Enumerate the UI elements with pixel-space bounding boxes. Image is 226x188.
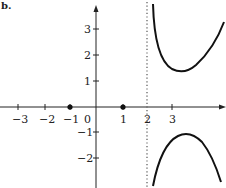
svg-text:2: 2 xyxy=(84,49,91,62)
svg-text:1: 1 xyxy=(120,113,127,126)
svg-text:−2: −2 xyxy=(39,113,55,126)
svg-text:−1: −1 xyxy=(63,113,79,126)
svg-text:1: 1 xyxy=(84,75,91,88)
point-neg1 xyxy=(67,104,72,109)
upper-branch-curve xyxy=(153,4,224,71)
part-label: b. xyxy=(1,0,11,11)
y-tick-labels: 3 2 1 −1 −2 xyxy=(77,23,93,165)
x-tick-labels: −3 −2 −1 0 1 2 3 xyxy=(12,113,176,126)
svg-text:−1: −1 xyxy=(77,126,93,139)
y-axis-arrow-icon xyxy=(94,5,99,12)
lower-branch-curve xyxy=(153,134,221,186)
svg-text:2: 2 xyxy=(144,113,151,126)
svg-text:3: 3 xyxy=(84,23,91,36)
x-axis xyxy=(0,105,226,110)
svg-text:3: 3 xyxy=(169,113,176,126)
svg-text:−3: −3 xyxy=(12,113,28,126)
svg-text:−2: −2 xyxy=(77,152,93,165)
svg-text:0: 0 xyxy=(84,113,91,126)
point-1 xyxy=(120,104,125,109)
x-axis-arrow-icon xyxy=(219,105,226,110)
y-axis xyxy=(94,5,99,188)
chart: b. −3 −2 −1 0 1 2 3 3 2 1 −1 −2 xyxy=(0,0,226,188)
